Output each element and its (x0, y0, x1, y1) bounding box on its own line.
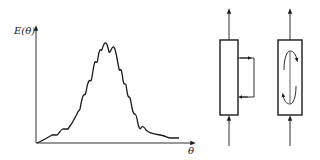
y-axis-label: E(θ) (13, 25, 35, 36)
distribution-curve (37, 43, 179, 143)
vessel-external-recycle (220, 11, 254, 146)
circulation-loop-top (284, 51, 297, 70)
recycle-loop (238, 58, 254, 97)
vessel-internal-circulation (278, 11, 302, 146)
rtd-plot: E(θ) θ (13, 25, 194, 156)
x-axis-label: θ (188, 145, 194, 156)
vessel-box (220, 40, 238, 115)
figure-canvas: E(θ) θ (0, 0, 320, 160)
circulation-loop-bottom (283, 86, 296, 104)
